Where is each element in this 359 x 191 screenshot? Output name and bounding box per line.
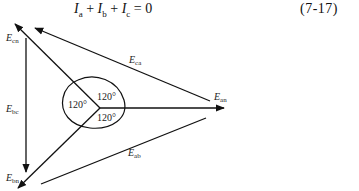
- label-eca: Eca: [128, 54, 142, 67]
- label-eab: Eab: [127, 147, 141, 160]
- label-ean: Ean: [213, 91, 227, 104]
- angle-label-left: 120°: [68, 99, 87, 110]
- line-ab-line: [41, 118, 206, 184]
- phasor-bn-arrow: [18, 108, 100, 188]
- phasor-cn-arrow: [15, 24, 100, 108]
- line-ca-arrow: [35, 28, 210, 101]
- phasor-diagram: Ean Ecn Ebn Eca Ebc Eab 120° 120° 120°: [0, 0, 359, 191]
- label-ecn: Ecn: [5, 32, 19, 45]
- label-ebn: Ebn: [5, 172, 20, 185]
- label-ebc: Ebc: [5, 103, 19, 116]
- angle-label-lower: 120°: [97, 112, 116, 123]
- angle-label-upper: 120°: [97, 91, 116, 102]
